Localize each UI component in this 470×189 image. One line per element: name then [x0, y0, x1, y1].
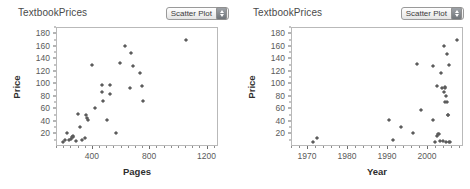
y-tick-label: 120: [271, 66, 285, 76]
y-tick-minor: [54, 39, 56, 40]
y-tick-label: 140: [36, 53, 50, 63]
y-tick-minor: [289, 114, 291, 115]
y-tick-minor: [54, 114, 56, 115]
x-tick-minor: [185, 146, 186, 148]
x-tick-minor: [85, 146, 86, 148]
y-tick-mark: [53, 133, 56, 134]
x-tick-minor: [113, 146, 114, 148]
y-axis-title: Price: [246, 75, 257, 98]
y-tick-label: 120: [36, 66, 50, 76]
y-tick-label: 80: [276, 91, 285, 101]
y-tick-label: 100: [271, 78, 285, 88]
y-tick-minor: [54, 27, 56, 28]
y-tick-mark: [288, 33, 291, 34]
y-tick-label: 40: [276, 116, 285, 126]
page-title: TextbookPrices: [253, 7, 322, 18]
x-tick-label: 1200: [197, 151, 216, 161]
data-point[interactable]: [183, 37, 187, 41]
x-tick-label: 2000: [418, 151, 437, 161]
x-tick-minor: [315, 146, 316, 148]
x-tick-mark: [207, 146, 208, 149]
x-tick-mark: [149, 146, 150, 149]
y-tick-minor: [54, 52, 56, 53]
plot-type-value: Scatter Plot: [406, 8, 451, 19]
x-tick-label: 800: [142, 151, 156, 161]
y-tick-mark: [53, 95, 56, 96]
x-axis-title: Year: [367, 166, 387, 177]
data-point[interactable]: [454, 37, 458, 41]
y-tick-label: 20: [276, 128, 285, 138]
x-tick-minor: [192, 146, 193, 148]
x-tick-minor: [171, 146, 172, 148]
chevron-down-icon: [220, 14, 224, 17]
y-tick-label: 180: [271, 28, 285, 38]
x-tick-label: 400: [85, 151, 99, 161]
y-tick-mark: [288, 108, 291, 109]
y-tick-mark: [53, 45, 56, 46]
y-tick-minor: [54, 77, 56, 78]
y-tick-minor: [54, 127, 56, 128]
scatter-plot-pages[interactable]: 204060801001201401601804008001200PagesPr…: [56, 27, 218, 146]
y-tick-minor: [289, 39, 291, 40]
x-tick-label: 1990: [378, 151, 397, 161]
x-tick-label: 1970: [298, 151, 317, 161]
scatter-plot-year[interactable]: 204060801001201401601801970198019902000Y…: [291, 27, 463, 146]
y-tick-label: 60: [41, 103, 50, 113]
y-tick-label: 140: [271, 53, 285, 63]
x-tick-minor: [299, 146, 300, 148]
y-tick-label: 40: [41, 116, 50, 126]
y-tick-label: 80: [41, 91, 50, 101]
x-tick-minor: [331, 146, 332, 148]
plot-type-dropdown-pages[interactable]: Scatter Plot: [166, 7, 229, 20]
x-tick-minor: [379, 146, 380, 148]
x-tick-mark: [387, 146, 388, 149]
y-tick-label: 160: [271, 41, 285, 51]
y-tick-label: 180: [36, 28, 50, 38]
plot-type-dropdown-year[interactable]: Scatter Plot: [401, 7, 464, 20]
chevron-up-icon: [455, 10, 459, 13]
y-tick-label: 100: [36, 78, 50, 88]
up-down-stepper-icon[interactable]: [451, 7, 462, 20]
x-tick-minor: [419, 146, 420, 148]
plot-type-value: Scatter Plot: [171, 8, 216, 19]
x-tick-minor: [355, 146, 356, 148]
y-tick-label: 160: [36, 41, 50, 51]
y-tick-minor: [289, 89, 291, 90]
y-tick-minor: [54, 64, 56, 65]
x-tick-minor: [323, 146, 324, 148]
y-tick-mark: [53, 83, 56, 84]
y-tick-mark: [288, 95, 291, 96]
y-tick-minor: [289, 127, 291, 128]
scatter-plot-workspace: TextbookPrices Scatter Plot 204060801001…: [0, 0, 470, 189]
y-tick-mark: [288, 58, 291, 59]
y-tick-mark: [53, 108, 56, 109]
x-tick-minor: [142, 146, 143, 148]
x-tick-minor: [128, 146, 129, 148]
x-tick-minor: [121, 146, 122, 148]
y-tick-label: 60: [276, 103, 285, 113]
y-tick-minor: [289, 77, 291, 78]
y-tick-mark: [288, 83, 291, 84]
x-tick-minor: [339, 146, 340, 148]
x-axis-title: Pages: [123, 166, 151, 177]
x-tick-mark: [427, 146, 428, 149]
x-tick-minor: [178, 146, 179, 148]
x-tick-minor: [451, 146, 452, 148]
y-tick-label: 20: [41, 128, 50, 138]
x-tick-minor: [395, 146, 396, 148]
x-tick-minor: [363, 146, 364, 148]
y-tick-mark: [288, 133, 291, 134]
y-tick-minor: [54, 89, 56, 90]
x-tick-minor: [411, 146, 412, 148]
y-tick-minor: [289, 27, 291, 28]
y-tick-mark: [53, 120, 56, 121]
x-tick-minor: [214, 146, 215, 148]
x-tick-mark: [347, 146, 348, 149]
x-tick-minor: [156, 146, 157, 148]
y-tick-mark: [288, 45, 291, 46]
y-tick-minor: [54, 102, 56, 103]
up-down-stepper-icon[interactable]: [216, 7, 227, 20]
year-panel: TextbookPrices Scatter Plot 204060801001…: [235, 0, 470, 189]
x-tick-minor: [435, 146, 436, 148]
x-tick-mark: [307, 146, 308, 149]
